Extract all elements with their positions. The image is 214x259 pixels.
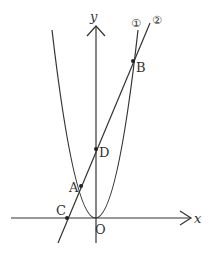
point-D-label: D [99,145,109,160]
curve-2-label: ② [152,14,162,27]
point-B-dot [131,59,135,63]
parabola-curve-1 [52,30,138,218]
point-A-dot [79,184,83,188]
curve-1-label: ① [131,17,141,30]
point-D-dot [94,147,98,151]
point-B-label: B [136,60,146,75]
x-axis-label: x [194,211,202,226]
y-axis-label: y [89,9,98,24]
point-C-label: C [56,203,66,218]
graph-diagram: y x O B D A C ① ② [0,0,214,259]
point-A-label: A [68,180,79,195]
origin-label: O [95,222,106,237]
